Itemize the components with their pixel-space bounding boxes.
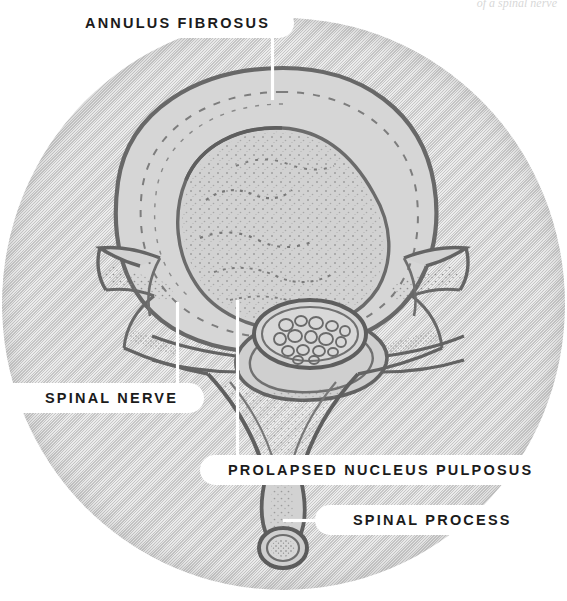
top-caption-text: of a spinal nerve <box>477 0 557 11</box>
label-prolapsed-nucleus-pulposus-text: PROLAPSED NUCLEUS PULPOSUS <box>228 463 533 478</box>
label-prolapsed-nucleus-pulposus[interactable]: PROLAPSED NUCLEUS PULPOSUS <box>200 455 555 485</box>
illustration-stage: of a spinal nerve <box>0 0 567 601</box>
leader-line-spinal-nerve <box>176 302 179 386</box>
leader-line-prolapsed-nucleus-pulposus <box>236 300 239 458</box>
label-spinal-process-text: SPINAL PROCESS <box>353 513 512 528</box>
label-spinal-nerve[interactable]: SPINAL NERVE <box>0 383 204 413</box>
label-annulus-fibrosus-text: ANNULUS FIBROSUS <box>85 16 270 31</box>
label-spinal-nerve-text: SPINAL NERVE <box>45 391 178 406</box>
leader-line-annulus-fibrosus <box>271 38 274 100</box>
label-spinal-process[interactable]: SPINAL PROCESS <box>315 505 534 535</box>
label-annulus-fibrosus[interactable]: ANNULUS FIBROSUS <box>0 8 294 38</box>
